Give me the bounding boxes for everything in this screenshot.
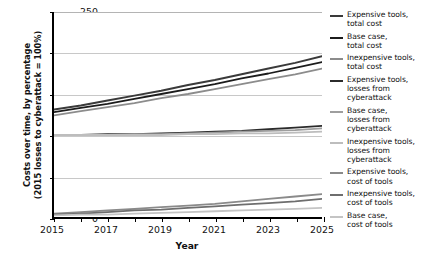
legend-item-label: Base case, losses from cyberattack: [347, 106, 392, 134]
legend-swatch-icon: [330, 216, 343, 218]
x-axis-tick-label: 2015: [30, 224, 74, 235]
series-line: [54, 56, 322, 109]
legend-item-label: Inexpensive tools, losses from cyberatta…: [347, 137, 415, 165]
x-axis-tick-mark: [81, 217, 82, 222]
series-line: [54, 69, 322, 116]
series-line: [54, 194, 322, 214]
legend-item-label: Inexpensive tools, total cost: [347, 53, 415, 72]
legend-swatch-icon: [330, 194, 343, 196]
x-axis-tick-label: 2019: [138, 224, 182, 235]
series-line: [54, 62, 322, 112]
x-axis-tick-mark: [297, 217, 298, 222]
legend-item[interactable]: Expensive tools, losses from cyberattack: [330, 75, 424, 103]
legend-item-label: Expensive tools, total cost: [347, 10, 408, 29]
x-axis-tick-mark: [270, 217, 271, 222]
legend-swatch-icon: [330, 15, 343, 17]
legend-item[interactable]: Base case, total cost: [330, 32, 424, 51]
x-axis-tick-label: 2021: [192, 224, 236, 235]
line-chart-figure: Costs over time, by percentage (2015 los…: [0, 0, 424, 256]
series-lines: [54, 12, 322, 217]
y-axis-title-line2: (2015 losses to cyberattack = 100%): [33, 20, 44, 210]
legend-swatch-icon: [330, 172, 343, 174]
x-axis-tick-mark: [162, 217, 163, 222]
plot-area: [52, 12, 322, 219]
chart-legend: Expensive tools, total costBase case, to…: [330, 10, 424, 232]
legend-item-label: Expensive tools, cost of tools: [347, 167, 408, 186]
legend-item[interactable]: Inexpensive tools, losses from cyberatta…: [330, 137, 424, 165]
y-axis-title: Costs over time, by percentage (2015 los…: [22, 20, 44, 210]
legend-swatch-icon: [330, 37, 343, 39]
legend-item[interactable]: Expensive tools, cost of tools: [330, 167, 424, 186]
x-axis-tick-mark: [189, 217, 190, 222]
x-axis-tick-mark: [54, 217, 55, 222]
legend-swatch-icon: [330, 58, 343, 60]
legend-item[interactable]: Base case, losses from cyberattack: [330, 106, 424, 134]
x-axis-tick-label: 2017: [84, 224, 128, 235]
legend-item-label: Inexpensive tools, cost of tools: [347, 189, 415, 208]
legend-item[interactable]: Inexpensive tools, total cost: [330, 53, 424, 72]
x-axis-tick-mark: [243, 217, 244, 222]
legend-swatch-icon: [330, 111, 343, 113]
x-axis-title: Year: [52, 240, 322, 251]
legend-item-label: Expensive tools, losses from cyberattack: [347, 75, 408, 103]
legend-item[interactable]: Base case, cost of tools: [330, 211, 424, 230]
y-axis-title-line1: Costs over time, by percentage: [22, 43, 32, 187]
legend-swatch-icon: [330, 80, 343, 82]
legend-item-label: Base case, total cost: [347, 32, 387, 51]
legend-item-label: Base case, cost of tools: [347, 211, 393, 230]
legend-swatch-icon: [330, 142, 343, 144]
x-axis-tick-mark: [135, 217, 136, 222]
x-axis-tick-mark: [216, 217, 217, 222]
legend-item[interactable]: Expensive tools, total cost: [330, 10, 424, 29]
x-axis-tick-mark: [108, 217, 109, 222]
legend-item[interactable]: Inexpensive tools, cost of tools: [330, 189, 424, 208]
x-axis-tick-label: 2023: [246, 224, 290, 235]
x-axis-tick-mark: [324, 217, 325, 222]
